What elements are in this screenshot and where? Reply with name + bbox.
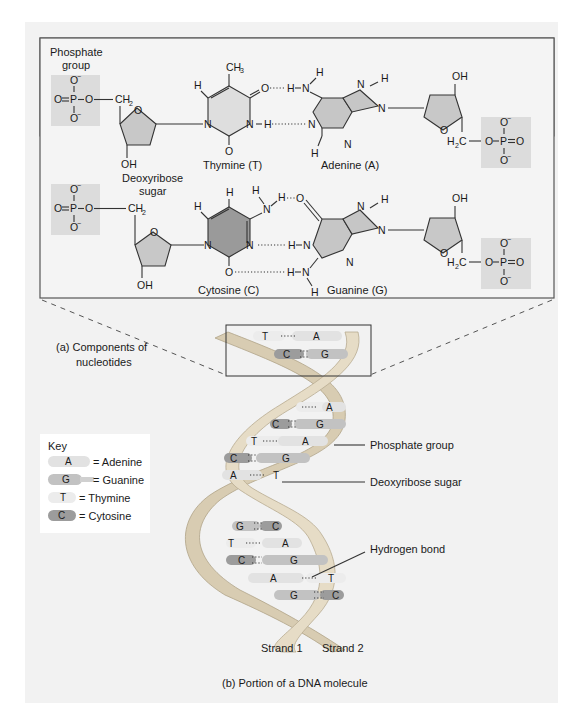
svg-text:O: O <box>485 135 493 147</box>
strand-1-label: Strand 1 <box>261 642 303 654</box>
key-item-thymine: T = Thymine <box>48 492 130 504</box>
cytosine-label: Cytosine (C) <box>198 284 259 296</box>
svg-text:O: O <box>150 226 158 238</box>
svg-text:G: G <box>290 555 298 566</box>
base-pair-row: G C <box>232 521 282 532</box>
svg-text:−: − <box>507 274 511 281</box>
svg-text:N: N <box>204 239 212 251</box>
svg-text:−: − <box>507 153 511 160</box>
base-pair-row: A <box>296 402 346 413</box>
svg-text:N: N <box>303 239 311 251</box>
svg-text:A: A <box>65 456 72 467</box>
svg-text:CH: CH <box>128 202 143 214</box>
svg-text:G: G <box>236 521 244 532</box>
svg-text:N: N <box>357 78 365 90</box>
base-pair-row: T A <box>246 436 328 447</box>
hydrogen-bond-callout: Hydrogen bond <box>370 543 445 555</box>
key-legend: Key A = Adenine G = Guanine T = Thymine … <box>40 434 150 533</box>
svg-text:N: N <box>302 266 310 278</box>
svg-text:N: N <box>246 118 254 130</box>
key-item-guanine: G = Guanine <box>48 474 144 486</box>
svg-text:O: O <box>85 93 93 105</box>
svg-text:OH: OH <box>452 70 468 82</box>
svg-text:OH: OH <box>137 279 153 291</box>
svg-text:T: T <box>60 492 66 503</box>
svg-text:N: N <box>263 203 271 215</box>
svg-text:G: G <box>290 590 298 601</box>
key-item-adenine: A = Adenine <box>48 456 142 468</box>
svg-text:O: O <box>54 93 62 105</box>
svg-text:A: A <box>326 402 333 413</box>
svg-text:C: C <box>459 256 467 268</box>
svg-text:O: O <box>85 202 93 214</box>
svg-text:H: H <box>316 66 324 78</box>
svg-text:H: H <box>194 79 202 91</box>
svg-text:O: O <box>296 192 304 204</box>
svg-text:P: P <box>70 202 77 214</box>
svg-text:O: O <box>261 82 269 94</box>
svg-text:G: G <box>316 419 324 430</box>
svg-text:CH: CH <box>115 93 130 105</box>
svg-text:N: N <box>346 256 354 268</box>
caption-a: (a) Components of <box>56 341 148 353</box>
svg-text:A: A <box>282 538 289 549</box>
deoxyribose-sugar-callout: Deoxyribose sugar <box>370 476 462 488</box>
svg-text:N: N <box>357 200 365 212</box>
base-pair-row: C G <box>274 349 348 360</box>
base-pair-row: C G <box>270 419 346 430</box>
svg-text:3: 3 <box>240 67 244 74</box>
svg-text:N: N <box>344 138 352 150</box>
svg-text:H: H <box>311 147 319 159</box>
deoxyribose-sugar-label-2: sugar <box>139 185 167 197</box>
phosphate-group-label-2: group <box>62 59 90 71</box>
svg-text:H: H <box>252 184 260 196</box>
svg-text:A: A <box>230 470 237 481</box>
svg-text:N: N <box>308 118 316 130</box>
svg-text:2: 2 <box>129 100 133 107</box>
svg-text:T: T <box>228 538 234 549</box>
svg-text:−: − <box>507 115 511 122</box>
svg-text:−: − <box>507 236 511 243</box>
base-pair-row: C G <box>224 453 310 464</box>
dna-structure-figure: Phosphate group O − O P O O − CH 2 O OH … <box>0 0 583 727</box>
svg-text:H: H <box>381 193 389 205</box>
svg-text:O: O <box>225 266 233 278</box>
base-pair-row: C G <box>226 555 328 566</box>
base-pair-row: T A <box>253 331 342 342</box>
svg-text:O: O <box>134 104 142 116</box>
svg-text:C: C <box>238 555 245 566</box>
svg-text:−: − <box>77 73 81 80</box>
svg-text:N: N <box>378 102 386 114</box>
base-pair-row: A T <box>248 573 346 584</box>
svg-text:H: H <box>381 72 389 84</box>
caption-a-2: nucleotides <box>76 356 132 368</box>
svg-text:H: H <box>226 186 234 198</box>
caption-b: (b) Portion of a DNA molecule <box>222 677 368 689</box>
thymine-label: Thymine (T) <box>203 159 262 171</box>
svg-text:C: C <box>230 453 237 464</box>
svg-text:OH: OH <box>121 158 137 170</box>
svg-text:N: N <box>246 239 254 251</box>
svg-text:T: T <box>328 573 334 584</box>
svg-text:A: A <box>302 436 309 447</box>
svg-text:O: O <box>485 256 493 268</box>
svg-text:= Guanine: = Guanine <box>93 474 144 486</box>
svg-text:−: − <box>77 182 81 189</box>
svg-text:H: H <box>287 82 295 94</box>
svg-text:G: G <box>62 474 70 485</box>
base-pair-row: G C <box>274 590 344 601</box>
svg-text:A: A <box>313 331 320 342</box>
svg-text:= Cytosine: = Cytosine <box>79 510 131 522</box>
phosphate-group-callout: Phosphate group <box>370 439 454 451</box>
svg-text:H: H <box>447 135 455 147</box>
svg-text:H: H <box>264 118 272 130</box>
svg-text:H: H <box>311 286 319 298</box>
svg-text:G: G <box>282 453 290 464</box>
svg-text:T: T <box>273 470 279 481</box>
svg-text:C: C <box>283 349 290 360</box>
svg-text:N: N <box>204 118 212 130</box>
key-title: Key <box>48 440 67 452</box>
svg-text:C: C <box>58 510 65 521</box>
svg-text:2: 2 <box>142 209 146 216</box>
svg-text:N: N <box>378 224 386 236</box>
